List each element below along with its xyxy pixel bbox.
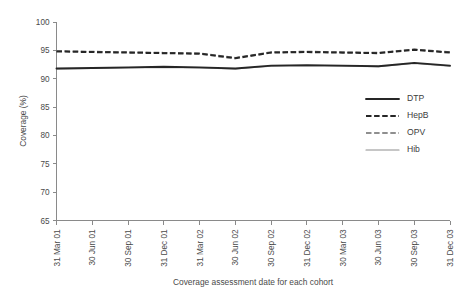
y-tick-label: 65: [40, 217, 50, 226]
x-tick-label: 30 Sep 03: [410, 229, 419, 267]
x-axis-title: Coverage assessment date for each cohort: [173, 277, 334, 287]
x-tick-label: 30 Jun 01: [88, 229, 97, 265]
y-tick-label: 100: [36, 18, 50, 27]
y-tick-label: 90: [40, 75, 50, 84]
x-tick-label: 31 Dec 02: [303, 229, 312, 267]
legend-label-hepb: HepB: [407, 110, 429, 120]
y-tick-label: 80: [40, 131, 50, 140]
x-tick-label: 31 Mar 01: [53, 229, 62, 266]
y-axis-ticks: 10095908580757065: [36, 18, 57, 226]
data-series-group: [57, 49, 451, 69]
chart-figure: 10095908580757065 31 Mar 0130 Jun 0130 S…: [0, 0, 467, 299]
legend-label-dtp: DTP: [407, 93, 424, 103]
x-tick-label: 30 Sep 02: [267, 229, 276, 267]
y-tick-label: 70: [40, 188, 50, 197]
y-tick-label: 75: [40, 160, 50, 169]
x-tick-label: 31 Dec 01: [160, 229, 169, 267]
y-axis-title: Coverage (%): [18, 95, 28, 147]
x-tick-label: 30 Jun 03: [374, 229, 383, 265]
chart-legend: DTPHepBOPVHib: [366, 93, 429, 154]
y-tick-label: 85: [40, 103, 50, 112]
line-chart: 10095908580757065 31 Mar 0130 Jun 0130 S…: [0, 0, 467, 299]
x-axis-ticks: 31 Mar 0130 Jun 0130 Sep 0131 Dec 0131 M…: [53, 221, 456, 267]
x-tick-label: 30 Jun 02: [231, 229, 240, 265]
x-tick-label: 30 Sep 01: [124, 229, 133, 267]
legend-label-opv: OPV: [407, 127, 425, 137]
y-tick-label: 95: [40, 46, 50, 55]
x-tick-label: 31 Mar 02: [196, 229, 205, 266]
x-tick-label: 31 Dec 03: [446, 229, 455, 267]
series-line-hepb: [57, 50, 451, 59]
legend-label-hib: Hib: [407, 144, 420, 154]
x-tick-label: 30 Mar 03: [339, 229, 348, 266]
series-line-dtp: [57, 63, 451, 69]
